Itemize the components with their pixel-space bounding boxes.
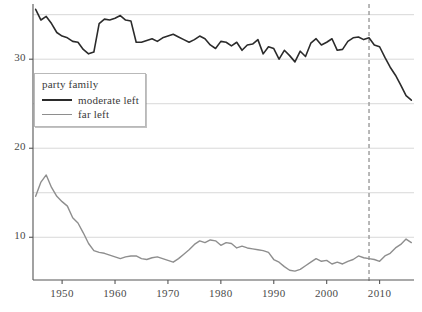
x-tick-label-1950: 1950 (39, 287, 85, 299)
legend-swatch-far-left (42, 114, 72, 115)
plot-area (0, 0, 422, 312)
x-tick-label-1990: 1990 (251, 287, 297, 299)
legend-item-far-left: far left (42, 107, 139, 121)
x-tick-label-2000: 2000 (304, 287, 350, 299)
legend-title: party family (42, 78, 139, 90)
y-tick-label-30: 30 (0, 51, 26, 63)
legend-label-moderate-left: moderate left (78, 94, 139, 106)
x-tick-label-1980: 1980 (198, 287, 244, 299)
line-chart: 102030 1950196019701980199020002010 part… (0, 0, 422, 312)
data-series (36, 9, 412, 271)
x-tick-label-1960: 1960 (92, 287, 138, 299)
legend-label-far-left: far left (78, 108, 109, 120)
legend-swatch-moderate-left (42, 99, 72, 101)
series-line-far-left (36, 175, 412, 271)
y-tick-label-10: 10 (0, 229, 26, 241)
axis-spines (33, 4, 414, 280)
legend-item-moderate-left: moderate left (42, 93, 139, 107)
x-tick-label-1970: 1970 (145, 287, 191, 299)
legend: party family moderate left far left (34, 73, 146, 127)
y-tick-label-20: 20 (0, 140, 26, 152)
x-tick-label-2010: 2010 (357, 287, 403, 299)
